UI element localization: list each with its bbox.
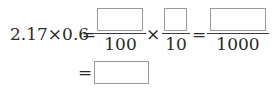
numerator-input-3[interactable]	[210, 8, 266, 31]
numerator-input-1[interactable]	[97, 8, 143, 31]
denominator-2: 10	[162, 36, 190, 53]
numerator-input-2[interactable]	[164, 8, 187, 31]
answer-input[interactable]	[94, 61, 149, 84]
times-sign: ×	[146, 26, 160, 43]
equals-sign-3: =	[78, 64, 92, 81]
denominator-3: 1000	[207, 36, 269, 53]
lhs-expression: 2.17×0.6	[10, 26, 89, 43]
equals-sign-2: =	[192, 26, 206, 43]
denominator-1: 100	[95, 36, 146, 53]
